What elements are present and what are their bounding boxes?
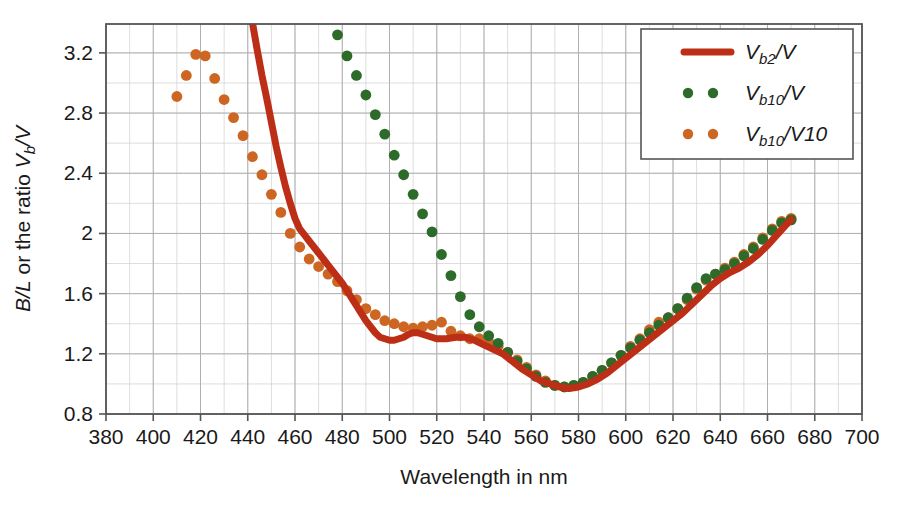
data-point [379,129,390,140]
legend-denominator: /V [774,40,798,63]
x-tick-label: 680 [797,425,832,448]
x-tick-label: 380 [88,425,123,448]
legend-swatch-dot [683,88,693,98]
data-point [257,169,268,180]
x-tick-labels: 3804004204404604805005205405605806006206… [88,425,879,448]
x-tick-label: 700 [844,425,879,448]
data-point [389,318,400,329]
data-point [294,242,305,253]
x-tick-label: 540 [466,425,501,448]
data-point [417,208,428,219]
data-point [436,249,447,260]
data-point [474,321,485,332]
x-tick-label: 620 [655,425,690,448]
legend-swatch-dot [708,88,718,98]
data-point [275,207,286,218]
x-tick-label: 600 [608,425,643,448]
chart-figure: 3804004204404604805005205405605806006206… [0,0,901,507]
legend-swatch-dot [683,129,693,139]
data-point [398,321,409,332]
data-point [379,315,390,326]
x-tick-label: 400 [136,425,171,448]
y-tick-label: 2.4 [64,161,94,184]
x-tick-label: 460 [277,425,312,448]
legend-denominator: /V10 [782,122,828,145]
y-axis-title-mid: or the ratio [11,168,34,280]
data-point [304,254,315,265]
legend-subscript: b2 [759,50,776,67]
y-tick-label: 2 [81,221,93,244]
data-point [427,227,438,238]
y-axis-title-subscript: b [21,146,38,154]
data-point [342,51,353,62]
data-point [483,330,494,341]
scatter-line-chart: 3804004204404604805005205405605806006206… [0,0,901,507]
x-tick-label: 520 [419,425,454,448]
data-point [332,29,343,40]
legend-label: Vb10/V10 [745,122,828,149]
x-tick-label: 440 [230,425,265,448]
legend-denominator: /V [782,81,806,104]
y-tick-label: 0.8 [64,402,93,425]
data-point [455,291,466,302]
x-tick-label: 420 [183,425,218,448]
data-point [446,270,457,281]
data-point [190,49,201,60]
legend-subscript: b10 [759,132,785,149]
data-point [701,273,712,284]
x-axis-title: Wavelength in nm [400,465,567,488]
data-point [436,317,447,328]
y-axis-title-lead: B/L [11,280,34,312]
legend-subscript: b10 [759,91,785,108]
chart-legend: Vb2/VVb10/VVb10/V10 [641,29,853,159]
y-tick-label: 3.2 [64,41,93,64]
data-point [427,320,438,331]
data-point [219,94,230,105]
data-point [398,169,409,180]
y-tick-label: 2.8 [64,101,93,124]
y-tick-label: 1.2 [64,342,93,365]
data-point [370,109,381,120]
data-point [351,70,362,81]
x-tick-label: 660 [750,425,785,448]
y-tick-label: 1.6 [64,282,93,305]
x-tick-label: 580 [561,425,596,448]
data-point [408,189,419,200]
x-tick-label: 560 [514,425,549,448]
x-tick-label: 500 [372,425,407,448]
x-tick-label: 480 [325,425,360,448]
data-point [238,130,249,141]
data-point [247,151,258,162]
data-point [171,91,182,102]
data-point [209,73,220,84]
data-point [200,51,211,62]
x-tick-label: 640 [703,425,738,448]
y-axis-title-denominator: /V [11,124,34,148]
data-point [464,309,475,320]
data-point [389,150,400,161]
data-point [285,228,296,239]
data-point [266,189,277,200]
data-point [360,90,371,101]
data-point [228,112,239,123]
data-point [181,70,192,81]
legend-swatch-dot [708,129,718,139]
data-point [370,309,381,320]
